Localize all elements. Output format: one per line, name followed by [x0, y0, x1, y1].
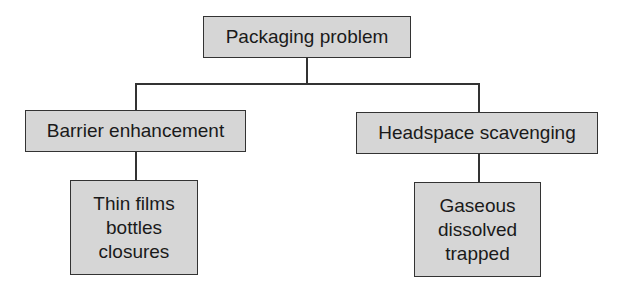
- left-leaf-connector: [135, 151, 137, 181]
- leaf-item: bottles: [93, 216, 174, 240]
- left-branch-connector: [135, 83, 137, 112]
- barrier-enhancement-label: Barrier enhancement: [47, 119, 224, 143]
- right-branch-connector: [478, 83, 480, 113]
- leaf-item: closures: [93, 240, 174, 264]
- barrier-enhancement-node: Barrier enhancement: [25, 110, 246, 152]
- scavenging-leaf-node: Gaseous dissolved trapped: [414, 182, 541, 277]
- horizontal-connector: [135, 83, 479, 85]
- leaf-item: Thin films: [93, 192, 174, 216]
- barrier-leaf-node: Thin films bottles closures: [70, 180, 198, 275]
- root-label: Packaging problem: [226, 25, 389, 49]
- leaf-item: trapped: [438, 242, 517, 266]
- root-node: Packaging problem: [203, 16, 411, 58]
- leaf-item: dissolved: [438, 218, 517, 242]
- leaf-item: Gaseous: [438, 194, 517, 218]
- root-connector: [306, 57, 308, 84]
- headspace-scavenging-node: Headspace scavenging: [356, 112, 598, 154]
- right-leaf-connector: [478, 152, 480, 183]
- headspace-scavenging-label: Headspace scavenging: [378, 121, 576, 145]
